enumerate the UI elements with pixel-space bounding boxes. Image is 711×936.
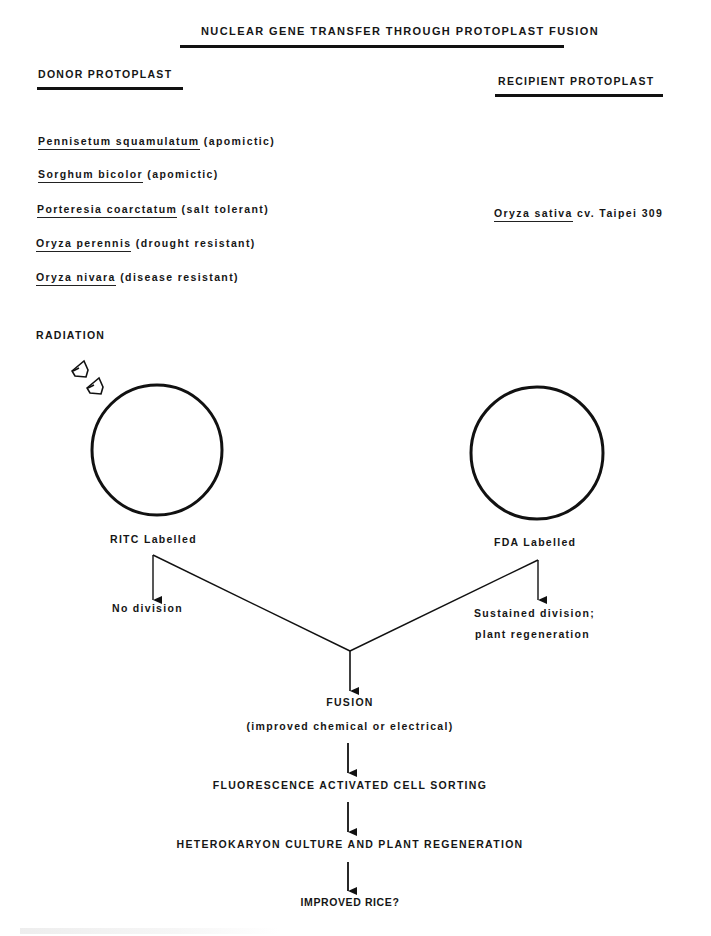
recipient-cell-label: FDA Labelled xyxy=(494,536,576,548)
donor-outcome: No division xyxy=(112,602,183,614)
sorting-step: FLUORESCENCE ACTIVATED CELL SORTING xyxy=(0,779,700,791)
radiation-arrow-icon xyxy=(87,378,103,394)
cropped-caption xyxy=(20,928,280,934)
donor-protoplast-circle xyxy=(92,385,222,515)
recipient-protoplast-circle xyxy=(471,387,603,519)
recipient-outcome-line2: plant regeneration xyxy=(475,628,590,640)
recipient-outcome-line1: Sustained division; xyxy=(474,607,595,619)
culture-step: HETEROKARYON CULTURE AND PLANT REGENERAT… xyxy=(0,838,700,850)
donor-cell-label: RITC Labelled xyxy=(110,533,197,545)
flow-diagram xyxy=(0,0,711,936)
radiation-arrow-icon xyxy=(72,361,88,377)
result-step: IMPROVED RICE? xyxy=(0,896,700,908)
fusion-note: (improved chemical or electrical) xyxy=(0,720,700,732)
fusion-step: FUSION xyxy=(0,696,700,708)
